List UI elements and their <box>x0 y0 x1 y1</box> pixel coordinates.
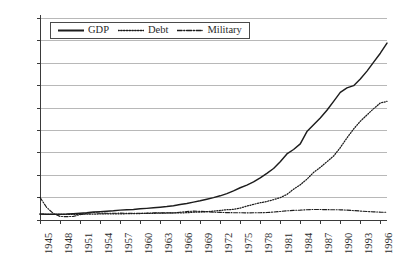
dash-dot-line-swatch <box>177 26 203 35</box>
legend-label: Debt <box>148 25 168 36</box>
x-tick-label: 1972 <box>224 233 235 254</box>
x-tick-label: 1990 <box>344 233 355 254</box>
x-tick-label: 1957 <box>124 233 135 254</box>
x-tick-label: 1969 <box>204 233 215 254</box>
x-tick-label: 1996 <box>384 233 395 254</box>
solid-line-swatch <box>58 26 84 35</box>
x-tick-label: 1951 <box>84 233 95 254</box>
x-tick-label: 1945 <box>44 233 55 254</box>
x-tick-label: 1963 <box>164 233 175 254</box>
x-tick-label: 1948 <box>64 233 75 254</box>
legend-entry: GDP <box>58 25 109 36</box>
x-tick-label: 1993 <box>364 233 375 254</box>
x-tick-label: 1978 <box>264 233 275 254</box>
x-tick-label: 1960 <box>144 233 155 254</box>
legend-entry: Debt <box>118 25 168 36</box>
x-tick-label: 1975 <box>244 233 255 254</box>
x-tick-label: 1954 <box>104 233 115 254</box>
dotted-line-swatch <box>118 26 144 35</box>
legend-label: GDP <box>88 25 109 36</box>
legend-label: Military <box>207 25 241 36</box>
x-tick-label: 1984 <box>304 233 315 254</box>
x-tick-label: 1981 <box>284 233 295 254</box>
legend-entry: Military <box>177 25 241 36</box>
chart-legend: GDPDebtMilitary <box>50 22 250 39</box>
x-tick-label: 1966 <box>184 233 195 254</box>
x-tick-label: 1987 <box>324 233 335 254</box>
